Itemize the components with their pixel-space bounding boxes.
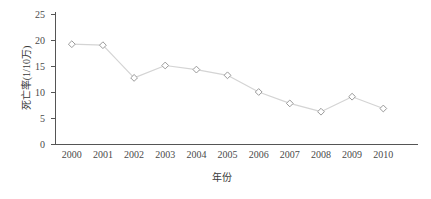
y-tick-label: 25 (35, 9, 45, 20)
x-tick-label: 2002 (124, 149, 144, 160)
x-tick-label: 2001 (93, 149, 113, 160)
y-axis-tick-marks (51, 14, 55, 144)
x-tick-label: 2000 (62, 149, 82, 160)
y-tick-label: 0 (40, 139, 45, 150)
y-tick-label: 5 (40, 113, 45, 124)
y-tick-label: 15 (35, 61, 45, 72)
y-tick-label: 20 (35, 35, 45, 46)
y-tick-label: 10 (35, 87, 45, 98)
x-tick-label: 2007 (280, 149, 300, 160)
x-tick-label: 2003 (155, 149, 175, 160)
data-point-markers (68, 41, 386, 115)
y-axis-tick-labels: 25 20 15 10 5 0 (35, 9, 45, 150)
data-point-2004 (193, 66, 200, 73)
data-point-2010 (380, 105, 387, 112)
data-point-2006 (255, 89, 262, 96)
x-tick-label: 2008 (311, 149, 331, 160)
x-axis-title: 年份 (212, 171, 232, 183)
data-point-2000 (68, 41, 75, 48)
x-tick-label: 2004 (186, 149, 206, 160)
x-tick-label: 2010 (373, 149, 393, 160)
y-axis-title: 死亡率(1/10万) (20, 46, 33, 110)
line-chart: 25 20 15 10 5 0 (0, 0, 431, 199)
data-point-2008 (318, 108, 325, 115)
x-tick-label: 2006 (249, 149, 269, 160)
x-tick-label: 2009 (342, 149, 362, 160)
data-point-2007 (286, 100, 293, 107)
data-point-2005 (224, 72, 231, 79)
data-point-2009 (349, 93, 356, 100)
x-axis-tick-labels: 2000 2001 2002 2003 2004 2005 2006 2007 … (62, 149, 394, 160)
x-tick-label: 2005 (218, 149, 238, 160)
data-point-2003 (162, 62, 169, 69)
chart-container: 25 20 15 10 5 0 (0, 0, 431, 199)
